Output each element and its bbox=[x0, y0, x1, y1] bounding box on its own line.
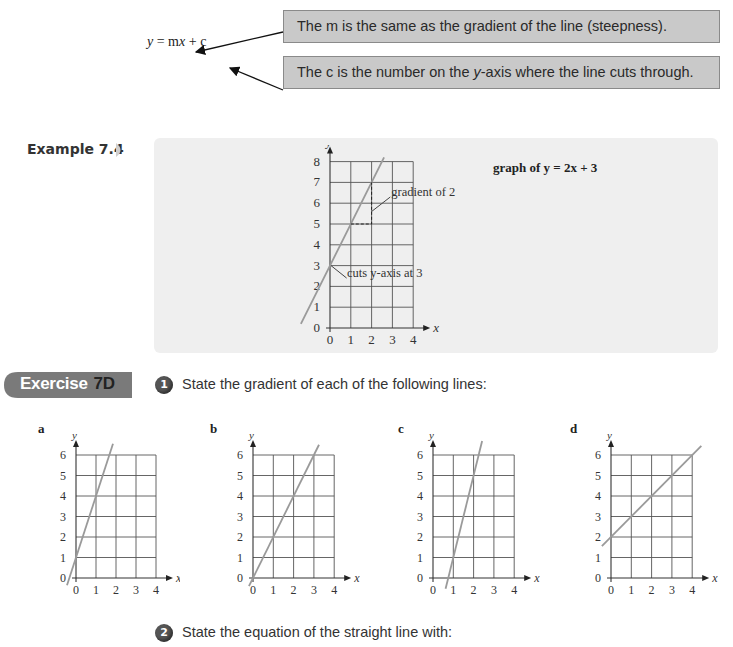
intercept-annotation: cuts y-axis at 3 bbox=[347, 266, 422, 280]
y-tick-label: 4 bbox=[417, 489, 423, 503]
y-tick-label: 4 bbox=[314, 237, 321, 252]
y-tick-label: 1 bbox=[60, 551, 66, 565]
y-tick-label: 5 bbox=[314, 216, 321, 231]
y-tick-label: 3 bbox=[237, 510, 243, 524]
x-tick-label: 1 bbox=[93, 583, 99, 597]
y-tick-label: 5 bbox=[237, 469, 243, 483]
series-line bbox=[446, 441, 483, 589]
y-tick-label: 5 bbox=[60, 469, 66, 483]
y-axis-label: y bbox=[325, 145, 332, 149]
y-tick-label: 5 bbox=[417, 469, 423, 483]
x-tick-label: 0 bbox=[608, 583, 614, 597]
y-axis-arrow-icon bbox=[608, 440, 614, 447]
y-tick-label: 2 bbox=[595, 530, 601, 544]
y-tick-label: 0 bbox=[60, 571, 66, 585]
y-tick-label: 0 bbox=[595, 571, 601, 585]
x-axis-arrow-icon bbox=[702, 575, 709, 581]
graph-title: graph of y = 2x + 3 bbox=[493, 160, 597, 176]
x-tick-label: 1 bbox=[450, 583, 456, 597]
x-tick-label: 2 bbox=[291, 583, 297, 597]
x-axis-label: x bbox=[711, 571, 718, 585]
x-tick-label: 1 bbox=[628, 583, 634, 597]
graph-label: b bbox=[210, 421, 217, 436]
x-axis-arrow-icon bbox=[423, 325, 430, 331]
x-tick-label: 0 bbox=[250, 583, 256, 597]
question-2-badge: 2 bbox=[155, 624, 173, 642]
arrow-to-m bbox=[196, 32, 283, 52]
y-tick-label: 5 bbox=[595, 469, 601, 483]
graph-label: a bbox=[38, 421, 45, 436]
x-axis-label: x bbox=[432, 320, 439, 335]
y-tick-label: 1 bbox=[417, 551, 423, 565]
x-tick-label: 3 bbox=[133, 583, 139, 597]
x-tick-label: 3 bbox=[669, 583, 675, 597]
x-tick-label: 1 bbox=[348, 332, 355, 347]
y-tick-label: 8 bbox=[314, 154, 321, 169]
x-axis-arrow-icon bbox=[166, 575, 173, 581]
exercise-number: 7D bbox=[94, 374, 115, 393]
y-tick-label: 7 bbox=[314, 174, 321, 189]
x-tick-label: 2 bbox=[471, 583, 477, 597]
y-tick-label: 4 bbox=[237, 489, 243, 503]
graph-label: c bbox=[398, 421, 404, 436]
arrow-to-c bbox=[230, 68, 283, 90]
x-tick-label: 0 bbox=[327, 332, 334, 347]
graph-c: yx012340123456c bbox=[385, 415, 555, 605]
graph-b: yx012340123456b bbox=[195, 415, 375, 605]
y-tick-label: 0 bbox=[314, 320, 321, 335]
x-axis-label: x bbox=[353, 571, 360, 585]
y-tick-label: 6 bbox=[595, 448, 601, 462]
y-axis-arrow-icon bbox=[430, 440, 436, 447]
y-tick-label: 1 bbox=[595, 551, 601, 565]
y-tick-label: 3 bbox=[60, 510, 66, 524]
x-tick-label: 4 bbox=[511, 583, 517, 597]
series-line bbox=[67, 444, 113, 585]
exercise-word: Exercise bbox=[20, 374, 88, 393]
intercept-pointer bbox=[331, 266, 347, 278]
x-tick-label: 0 bbox=[73, 583, 79, 597]
x-tick-label: 4 bbox=[331, 583, 337, 597]
exercise-heading: Exercise7D bbox=[20, 374, 115, 394]
series-line bbox=[249, 445, 319, 586]
y-tick-label: 0 bbox=[237, 571, 243, 585]
example-marker-icon bbox=[115, 142, 125, 158]
y-axis-label: y bbox=[428, 429, 434, 441]
x-tick-label: 3 bbox=[491, 583, 497, 597]
y-axis-label: y bbox=[606, 429, 612, 441]
y-tick-label: 6 bbox=[237, 448, 243, 462]
y-axis-label: y bbox=[71, 429, 77, 441]
y-tick-label: 2 bbox=[417, 530, 423, 544]
y-tick-label: 2 bbox=[237, 530, 243, 544]
graph-label: d bbox=[570, 421, 578, 436]
x-tick-label: 4 bbox=[689, 583, 695, 597]
x-tick-label: 1 bbox=[270, 583, 276, 597]
y-tick-label: 0 bbox=[417, 571, 423, 585]
x-tick-label: 2 bbox=[368, 332, 375, 347]
x-axis-label: x bbox=[533, 571, 540, 585]
y-tick-label: 4 bbox=[595, 489, 601, 503]
x-tick-label: 4 bbox=[410, 332, 417, 347]
y-tick-label: 3 bbox=[314, 258, 321, 273]
gradient-annotation: gradient of 2 bbox=[391, 185, 455, 199]
gradient-pointer bbox=[372, 197, 391, 212]
x-axis-arrow-icon bbox=[524, 575, 531, 581]
callout-arrows bbox=[0, 0, 733, 110]
y-tick-label: 6 bbox=[314, 195, 321, 210]
y-tick-label: 1 bbox=[237, 551, 243, 565]
x-axis-arrow-icon bbox=[344, 575, 351, 581]
x-tick-label: 3 bbox=[389, 332, 396, 347]
example-label: Example 7.4 bbox=[27, 141, 124, 157]
question-1-badge: 1 bbox=[155, 376, 173, 394]
y-tick-label: 6 bbox=[417, 448, 423, 462]
x-axis-label: x bbox=[175, 571, 180, 585]
x-tick-label: 2 bbox=[649, 583, 655, 597]
y-tick-label: 1 bbox=[314, 299, 321, 314]
x-tick-label: 2 bbox=[113, 583, 119, 597]
graph-a: yx012340123456a bbox=[0, 415, 180, 605]
y-axis-arrow-icon bbox=[73, 440, 79, 447]
y-axis-label: y bbox=[248, 429, 254, 441]
y-tick-label: 2 bbox=[60, 530, 66, 544]
y-tick-label: 4 bbox=[60, 489, 66, 503]
graph-d: yx012340123456d bbox=[555, 415, 733, 605]
x-tick-label: 4 bbox=[153, 583, 159, 597]
